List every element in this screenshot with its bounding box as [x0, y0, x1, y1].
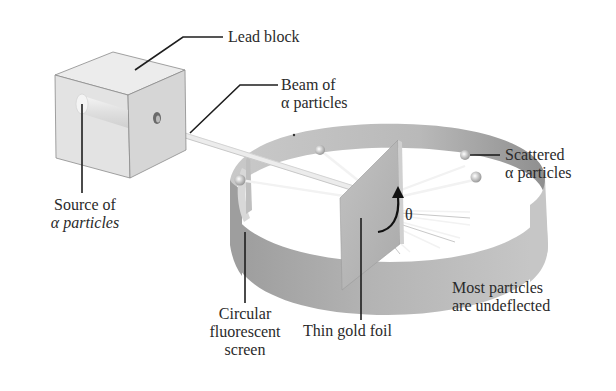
label-source-line2: α particles [40, 214, 130, 232]
label-scattered-line2: α particles [505, 164, 572, 182]
label-screen-line2: fluorescent [200, 323, 290, 341]
label-beam-line2: α particles [281, 94, 348, 112]
label-undeflected-line1: Most particles [452, 279, 550, 297]
label-foil-text: Thin gold foil [303, 322, 392, 339]
label-undeflected: Most particles are undeflected [452, 279, 550, 315]
label-theta: θ [405, 206, 413, 224]
label-lead-block: Lead block [228, 28, 300, 46]
label-undeflected-line2: are undeflected [452, 297, 550, 315]
label-beam: Beam of α particles [281, 76, 348, 112]
label-source-line1: Source of [40, 196, 130, 214]
label-source: Source of α particles [40, 196, 130, 232]
back-wall-dot [293, 134, 295, 136]
label-screen: Circular fluorescent screen [200, 305, 290, 359]
label-screen-line1: Circular [200, 305, 290, 323]
label-scattered: Scattered α particles [505, 146, 572, 182]
label-theta-text: θ [405, 206, 413, 223]
lead-block [55, 52, 186, 178]
label-screen-line3: screen [200, 341, 290, 359]
label-beam-line1: Beam of [281, 76, 348, 94]
rutherford-experiment-diagram: Lead block Beam of α particles Source of… [0, 0, 616, 391]
label-scattered-line1: Scattered [505, 146, 572, 164]
label-lead-block-text: Lead block [228, 28, 300, 45]
label-foil: Thin gold foil [303, 322, 392, 340]
